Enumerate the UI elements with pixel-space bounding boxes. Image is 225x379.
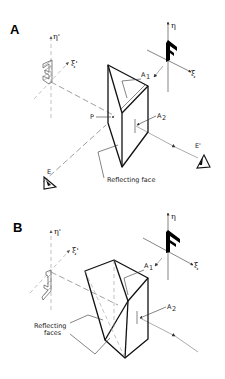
point-p-annotation: P: [90, 113, 114, 121]
svg-text:2: 2: [162, 114, 166, 122]
svg-text:ξ: ξ: [194, 261, 199, 270]
virtual-ray-a: [51, 82, 115, 116]
svg-text:2: 2: [172, 305, 176, 313]
reflecting-faces-callout: Reflecting faces: [34, 315, 110, 354]
object-f-glyph: [166, 40, 177, 62]
xi-label: ξ: [191, 69, 196, 78]
svg-text:ξ': ξ': [72, 246, 79, 255]
exit-ray: [136, 126, 175, 147]
object-f-glyph-b: [166, 230, 180, 253]
incoming-ray-b: [155, 258, 162, 266]
xi-prime-axis: [34, 64, 67, 99]
svg-text:1: 1: [146, 73, 150, 81]
exit-ray-b-ext: [175, 336, 198, 352]
eta-label: η: [171, 21, 176, 30]
eye-e-prime: E': [195, 142, 210, 168]
image-axes-a: η' ξ': [34, 32, 78, 118]
svg-text:η': η': [54, 227, 61, 236]
svg-text:faces: faces: [44, 329, 62, 337]
reflecting-face-callout: Reflecting face: [98, 145, 155, 184]
panel-a-label: A: [10, 22, 20, 37]
svg-text:E': E': [195, 142, 201, 150]
image-f-glyph: [43, 60, 52, 84]
a2-annotation: A 2: [135, 112, 166, 133]
image-f-glyph-b: [42, 270, 51, 300]
svg-text:η: η: [171, 212, 176, 221]
eta-prime-label: η': [53, 32, 60, 41]
panel-b-label: B: [13, 220, 22, 235]
prism-b: [85, 260, 148, 358]
image-axes-b: η' ξ': [30, 227, 79, 310]
xi-prime-label: ξ': [71, 59, 78, 68]
svg-text:P: P: [90, 113, 94, 121]
eye-e: E: [44, 168, 56, 189]
a2-annotation-b: A 2: [137, 303, 176, 324]
prism-diagram: A η ξ η' ξ': [0, 0, 225, 379]
svg-text:E: E: [47, 168, 51, 176]
exit-ray-b: [140, 318, 175, 336]
eye-ray-e: [43, 125, 106, 182]
virtual-ray-b: [51, 272, 118, 305]
incoming-ray: [154, 66, 163, 77]
svg-text:Reflecting face: Reflecting face: [107, 176, 155, 184]
panel-b: B η ξ η' ξ': [13, 212, 199, 358]
object-axes-a: η ξ: [147, 21, 196, 92]
panel-a: A η ξ η' ξ': [10, 21, 210, 189]
svg-text:1: 1: [149, 264, 153, 272]
